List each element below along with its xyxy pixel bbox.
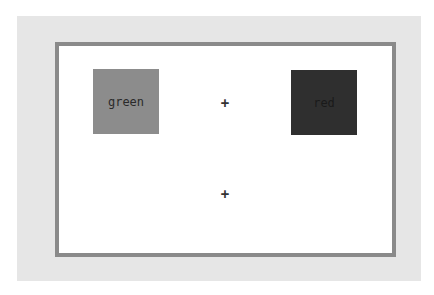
green-box[interactable]: green (93, 69, 159, 134)
red-box-label: red (313, 96, 335, 110)
green-box-label: green (108, 95, 144, 109)
red-box[interactable]: red (291, 70, 357, 135)
plus-marker-bottom: + (218, 187, 232, 201)
plus-marker-top: + (218, 96, 232, 110)
